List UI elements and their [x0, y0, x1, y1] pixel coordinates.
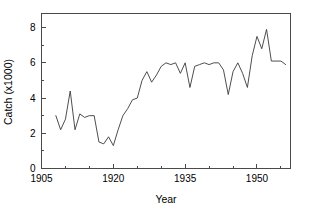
- x-axis-label: Year: [155, 193, 177, 205]
- y-tick-label: 4: [30, 93, 36, 104]
- y-tick-label: 2: [30, 128, 36, 139]
- y-tick-label: 0: [30, 163, 36, 174]
- x-axis-tick-labels: 1905192019351950: [30, 173, 268, 184]
- y-tick-label: 6: [30, 57, 36, 68]
- x-tick-label: 1920: [102, 173, 125, 184]
- x-axis-major-ticks: [42, 164, 257, 169]
- y-axis-label: Catch (x1000): [2, 59, 14, 125]
- x-tick-label: 1935: [174, 173, 197, 184]
- x-tick-label: 1905: [30, 173, 53, 184]
- axis-frame: [42, 14, 291, 169]
- data-series-group: [56, 29, 286, 145]
- x-tick-label: 1950: [246, 173, 269, 184]
- chart-figure: 1905192019351950 02468 Year Catch (x1000…: [0, 0, 310, 211]
- y-tick-label: 8: [30, 22, 36, 33]
- catch-line-series: [56, 29, 286, 145]
- line-chart-svg: 1905192019351950 02468 Year Catch (x1000…: [0, 0, 310, 211]
- y-axis-tick-labels: 02468: [30, 22, 36, 174]
- y-axis-major-ticks: [42, 28, 47, 169]
